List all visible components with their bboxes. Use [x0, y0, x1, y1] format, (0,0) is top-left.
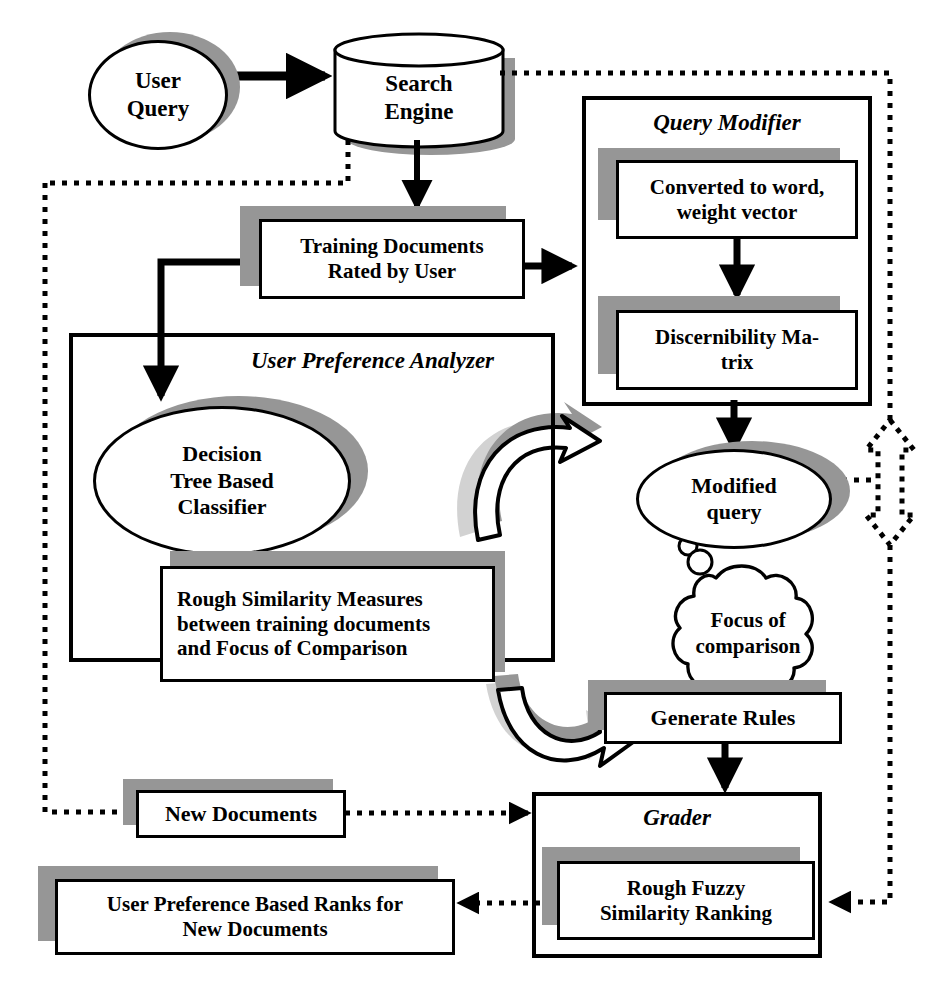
discernibility-matrix-label: Discernibility Ma- trix	[649, 325, 825, 375]
generate-rules-face[interactable]: Generate Rules	[604, 692, 842, 744]
converted-to-word-face[interactable]: Converted to word, weight vector	[616, 160, 858, 239]
grader-title: Grader	[532, 805, 822, 831]
output-ranks-label: User Preference Based Ranks for New Docu…	[101, 892, 409, 942]
decision-tree-label: Decision Tree Based Classifier	[170, 441, 274, 520]
rough-similarity-label: Rough Similarity Measures between traini…	[163, 587, 436, 661]
query-modifier-title: Query Modifier	[582, 110, 872, 136]
rough-fuzzy-label: Rough Fuzzy Similarity Ranking	[594, 876, 778, 926]
user-query-face[interactable]: User Query	[88, 40, 228, 150]
training-documents-label: Training Documents Rated by User	[294, 234, 489, 284]
output-ranks-face[interactable]: User Preference Based Ranks for New Docu…	[55, 879, 455, 955]
modified-query-face[interactable]: Modified query	[636, 449, 832, 549]
training-documents-face[interactable]: Training Documents Rated by User	[259, 219, 525, 299]
user-query-label: User Query	[127, 67, 190, 122]
rough-similarity-face[interactable]: Rough Similarity Measures between traini…	[160, 566, 495, 682]
modified-query-label: Modified query	[691, 473, 777, 526]
node-focus-of-comparison[interactable]: Focus of comparison	[678, 598, 818, 668]
user-preference-analyzer-title: User Preference Analyzer	[200, 348, 545, 374]
node-search-engine[interactable]: Search Engine	[335, 55, 503, 140]
rough-fuzzy-face[interactable]: Rough Fuzzy Similarity Ranking	[557, 861, 815, 940]
new-documents-face[interactable]: New Documents	[136, 790, 346, 838]
discernibility-matrix-face[interactable]: Discernibility Ma- trix	[616, 310, 858, 390]
converted-to-word-label: Converted to word, weight vector	[644, 175, 830, 225]
search-engine-label: Search Engine	[384, 70, 453, 125]
generate-rules-label: Generate Rules	[645, 705, 802, 731]
diagram-canvas: User Query Search Engine Training Docume…	[0, 0, 936, 990]
focus-of-comparison-label: Focus of comparison	[696, 607, 801, 660]
dotted-double-headed-arrow	[866, 420, 914, 545]
decision-tree-face[interactable]: Decision Tree Based Classifier	[93, 406, 351, 556]
edge-searchengine-leftbus	[45, 140, 348, 183]
new-documents-label: New Documents	[159, 801, 323, 827]
